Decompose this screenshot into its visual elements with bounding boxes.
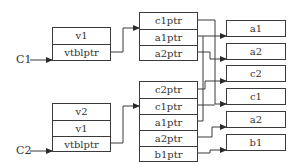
- c1-field-vtblptr: vtblptr: [53, 44, 110, 60]
- target-c1: c1: [226, 88, 286, 105]
- c2-field-v1: v1: [53, 120, 110, 136]
- vtable-diagram: C1 C2 v1 vtblptr c1ptr a1ptr a2ptr v2 v1…: [0, 0, 302, 164]
- c1-vtable-box: c1ptr a1ptr a2ptr: [139, 12, 198, 61]
- c2-object-box: v2 v1 vtblptr: [52, 103, 111, 152]
- target-a2-upper: a2: [226, 43, 286, 60]
- target-a2-upper-label: a2: [227, 44, 285, 59]
- c2-a1ptr-line: [198, 36, 203, 121]
- target-a1-label: a1: [227, 21, 285, 36]
- target-a1: a1: [226, 20, 286, 37]
- object-label-c2: C2: [16, 144, 31, 157]
- c1-object-box: v1 vtblptr: [52, 27, 111, 61]
- target-b1: b1: [226, 134, 286, 151]
- c1-vtable-a2ptr: a2ptr: [140, 45, 197, 61]
- c2-a2ptr-arrow: [198, 127, 226, 137]
- target-c2: c2: [226, 65, 286, 82]
- target-c1-label: c1: [227, 89, 285, 104]
- c1-vtable-c1ptr: c1ptr: [140, 13, 197, 29]
- object-label-c1: C1: [16, 53, 31, 66]
- target-a2-lower: a2: [226, 111, 286, 128]
- target-c2-label: c2: [227, 66, 285, 81]
- c2-field-vtblptr: vtblptr: [53, 136, 110, 152]
- c2-vtable-c1ptr: c1ptr: [140, 98, 197, 114]
- c1-field-v1: v1: [53, 28, 110, 44]
- c2-field-v2: v2: [53, 104, 110, 120]
- target-a2-lower-label: a2: [227, 112, 285, 127]
- c1-vtable-a1ptr: a1ptr: [140, 29, 197, 45]
- c2-vtable-a2ptr: a2ptr: [140, 130, 197, 146]
- c1-vtblptr-arrow: [111, 28, 139, 52]
- c2-vtable-a1ptr: a1ptr: [140, 114, 197, 130]
- c2-vtable-c2ptr: c2ptr: [140, 82, 197, 98]
- c2-vtblptr-arrow: [111, 106, 139, 143]
- c2-c2ptr-arrow: [198, 81, 226, 89]
- c1-a2ptr-arrow: [198, 52, 226, 59]
- c2-vtable-box: c2ptr c1ptr a1ptr a2ptr b1ptr: [139, 81, 198, 162]
- c2-vtable-b1ptr: b1ptr: [140, 146, 197, 162]
- c1-c1ptr-arrow: [198, 20, 226, 104]
- c2-b1ptr-arrow: [198, 150, 226, 153]
- target-b1-label: b1: [227, 135, 285, 150]
